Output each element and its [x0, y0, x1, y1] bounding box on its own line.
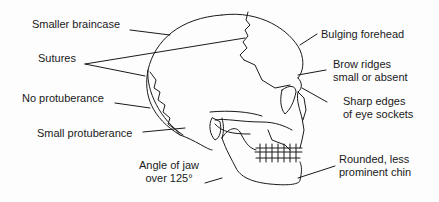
label-rounded-chin: Rounded, less prominent chin [339, 153, 411, 179]
skull-diagram: Smaller braincase Sutures No protuberanc… [0, 0, 439, 202]
label-rounded-chin-line2: prominent chin [339, 166, 411, 179]
label-angle-of-jaw: Angle of jaw over 125° [130, 159, 208, 185]
label-bulging-forehead: Bulging forehead [321, 28, 404, 41]
label-small-protuberance: Small protuberance [37, 127, 132, 140]
label-angle-of-jaw-line2: over 125° [130, 172, 208, 185]
label-no-protuberance: No protuberance [22, 92, 104, 105]
label-smaller-braincase: Smaller braincase [32, 18, 120, 31]
label-sharp-edges-line2: of eye sockets [343, 108, 413, 121]
label-brow-ridges: Brow ridges small or absent [333, 58, 408, 84]
label-brow-ridges-line2: small or absent [333, 71, 408, 84]
label-sutures: Sutures [38, 52, 76, 65]
label-sharp-edges-line1: Sharp edges [343, 95, 413, 108]
label-sharp-edges: Sharp edges of eye sockets [343, 95, 413, 121]
label-rounded-chin-line1: Rounded, less [339, 153, 411, 166]
label-angle-of-jaw-line1: Angle of jaw [130, 159, 208, 172]
label-brow-ridges-line1: Brow ridges [333, 58, 408, 71]
